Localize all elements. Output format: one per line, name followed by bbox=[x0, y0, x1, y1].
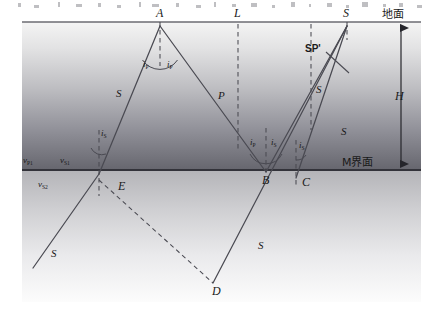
ray-label-sp-prime: SP' bbox=[305, 44, 321, 54]
depth-label-h: H bbox=[395, 90, 404, 102]
ray-label-s-lower-right: S bbox=[258, 240, 264, 251]
figure-canvas: A B C D E L S 地面 M界面 H iP iP iP iS iS iS… bbox=[0, 0, 441, 316]
ray-label-s-right-upper: S bbox=[316, 84, 322, 95]
ray-label-s-left-upper: S bbox=[116, 88, 122, 99]
angle-label-c: iS bbox=[299, 141, 305, 151]
point-label-a: A bbox=[156, 7, 163, 19]
angle-label-b-left: iP bbox=[250, 138, 256, 148]
angle-label-b-right: iS bbox=[271, 138, 277, 148]
angle-label-e: iS bbox=[101, 129, 107, 139]
point-label-c: C bbox=[302, 176, 310, 188]
point-label-e: E bbox=[118, 180, 125, 192]
velocity-label-vs1: vS1 bbox=[60, 156, 70, 166]
scan-artifact-band bbox=[0, 0, 441, 13]
ground-surface-label: 地面 bbox=[382, 9, 404, 20]
mantle-layer bbox=[22, 170, 421, 302]
ray-label-s-right-lower: S bbox=[341, 126, 347, 137]
angle-label-a-left: iP bbox=[143, 60, 149, 70]
velocity-label-vp1: vP1 bbox=[23, 156, 33, 166]
point-label-b: B bbox=[262, 174, 269, 186]
moho-interface-label: M界面 bbox=[342, 157, 374, 168]
angle-label-a-right: iP bbox=[167, 60, 173, 70]
ray-label-p-mid: P bbox=[218, 90, 225, 101]
velocity-label-vs2: vS2 bbox=[38, 180, 48, 190]
point-label-s-top: S bbox=[343, 7, 349, 19]
point-label-d: D bbox=[212, 285, 221, 297]
point-label-l: L bbox=[234, 7, 241, 19]
ray-label-s-lower-left: S bbox=[51, 248, 57, 259]
